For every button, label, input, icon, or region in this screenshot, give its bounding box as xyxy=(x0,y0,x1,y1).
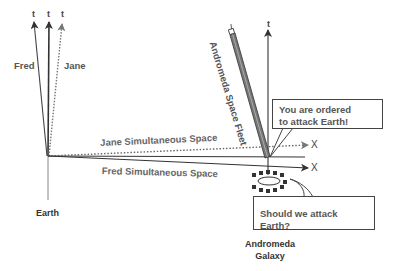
fleet-worldline xyxy=(228,24,270,158)
andromeda-label-line-2: Galaxy xyxy=(242,250,298,262)
question-speech-bubble: Should we attack Earth? xyxy=(253,196,375,230)
order-line-2: to attack Earth! xyxy=(279,116,376,128)
andromeda-label-line-1: Andromeda xyxy=(242,238,298,250)
fred-label: Fred xyxy=(14,61,35,71)
earth-t-label: t xyxy=(47,10,50,19)
andromeda-galaxy-icon xyxy=(252,170,287,193)
order-line-1: You are ordered xyxy=(279,104,376,116)
earth-time-axis xyxy=(48,22,49,156)
fred-time-axis xyxy=(34,22,47,156)
earth-label: Earth xyxy=(36,209,59,218)
andromeda-t-label: t xyxy=(267,20,270,29)
order-bubble-tail xyxy=(270,128,293,157)
fred-t-label: t xyxy=(32,10,35,19)
order-speech-bubble: You are ordered to attack Earth! xyxy=(272,99,383,129)
fred-x-label: X xyxy=(311,163,318,173)
question-text: Should we attack Earth? xyxy=(260,208,368,232)
question-bubble-tail xyxy=(290,179,313,197)
jane-x-label: X xyxy=(311,140,318,150)
jane-t-label: t xyxy=(61,10,64,19)
jane-label: Jane xyxy=(64,61,86,71)
andromeda-galaxy-label: Andromeda Galaxy xyxy=(242,238,298,262)
jane-time-axis xyxy=(49,24,62,156)
